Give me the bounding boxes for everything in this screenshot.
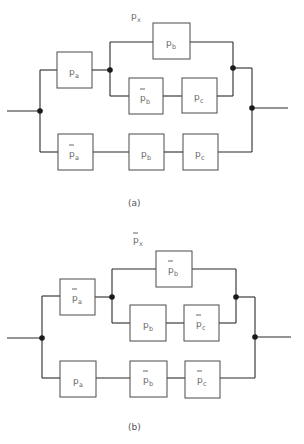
- block-a-lower-1: p a: [58, 134, 93, 170]
- block-subscript: a: [75, 154, 79, 162]
- block-a-lower-2: p b: [129, 134, 164, 170]
- block-b-upper-series: p a: [60, 279, 95, 315]
- block-a-parallel-bottom-1: p b: [129, 78, 163, 114]
- junction-dot: [37, 108, 43, 114]
- junction-dot: [107, 67, 113, 73]
- title-subscript: x: [139, 240, 143, 248]
- block-b-lower-2: p b: [130, 361, 167, 397]
- block-box: [129, 78, 163, 114]
- junction-dot: [249, 105, 255, 111]
- junction-dot: [233, 294, 239, 300]
- diagram-a: p x: [7, 11, 288, 208]
- block-subscript: c: [202, 324, 206, 332]
- block-box: [58, 134, 93, 170]
- block-subscript: c: [201, 154, 205, 162]
- junction-dot: [109, 294, 115, 300]
- block-subscript: c: [200, 97, 204, 105]
- block-b-lower-1: p a: [60, 361, 96, 397]
- block-subscript: b: [146, 98, 150, 106]
- diagram-a-title: p x: [131, 11, 141, 24]
- block-b-parallel-bottom-1: p b: [130, 305, 166, 341]
- block-b-parallel-top: p b: [156, 251, 192, 287]
- reliability-diagrams: p x: [0, 0, 304, 444]
- junction-dot: [39, 335, 45, 341]
- block-subscript: b: [174, 270, 178, 278]
- block-box: [156, 251, 192, 287]
- diagram-b-title: p x: [133, 233, 143, 248]
- block-b-parallel-bottom-2: p c: [184, 305, 219, 341]
- block-a-upper-series: p a: [57, 52, 92, 88]
- junction-dot: [230, 65, 236, 71]
- title-subscript: x: [137, 16, 141, 24]
- block-subscript: b: [147, 154, 151, 162]
- block-subscript: b: [149, 380, 153, 388]
- diagram-b: p x p: [7, 233, 291, 432]
- block-subscript: b: [149, 325, 153, 333]
- block-b-lower-3: p c: [185, 361, 220, 398]
- block-a-lower-3: p c: [183, 134, 218, 170]
- block-subscript: a: [79, 381, 83, 389]
- block-subscript: a: [75, 72, 79, 80]
- block-a-parallel-top: p b: [153, 23, 190, 59]
- block-a-parallel-bottom-2: p c: [182, 78, 217, 113]
- junction-dot: [252, 334, 258, 340]
- caption-a: (a): [128, 198, 141, 208]
- block-subscript: b: [172, 43, 176, 51]
- caption-b: (b): [128, 422, 141, 432]
- block-subscript: a: [78, 298, 82, 306]
- block-subscript: c: [203, 380, 207, 388]
